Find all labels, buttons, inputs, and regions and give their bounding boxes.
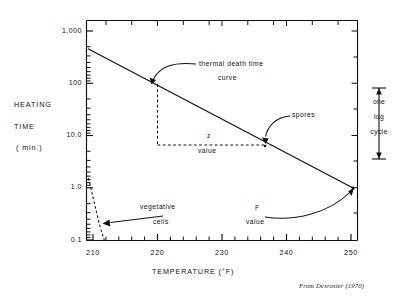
x-tick-label-210: 210 [76,249,110,257]
series-vegetative-cells [89,178,105,241]
y-tick-label-0-1: 0.1 [40,236,82,243]
f-value-point-marker [352,187,355,190]
x-tick-label-250: 250 [334,249,368,257]
annotation-z-symbol: z [207,132,211,139]
spores-leader [266,116,291,137]
y-axis-title-line-1: HEATING [14,101,52,109]
log-cycle-down-arrowhead [376,153,382,160]
y-tick-label-100: 100 [40,79,82,86]
figure-container: 1,000 100 10.0 1.0 0.1 210 220 230 240 2… [0,0,406,305]
y-minor-ticks [87,47,91,238]
vegetative-cells-arrowhead [103,220,111,227]
log-cycle-up-arrowhead [376,88,382,95]
series-thermal-death-time-curve [88,49,354,189]
f-value-leader [265,193,349,218]
y-tick-label-1000: 1,000 [40,27,82,34]
log-cycle-label-line-3: cycle [366,127,392,138]
x-tick-label-220: 220 [141,249,175,257]
figure-credit: From Desrosier (1970) [299,282,364,289]
spores-point-marker [264,145,267,148]
y-axis-title-line-3: ( min.) [16,144,43,152]
log-cycle-label-line-1: one [366,97,392,108]
annotation-thermal-death-time-line-1: thermal death time [199,60,263,67]
plot-frame [87,21,358,241]
x-axis-title: TEMPERATURE (°F) [152,268,234,276]
annotation-spores: spores [292,111,315,118]
y-tick-label-1: 1.0 [40,183,82,190]
annotation-z-word: value [198,147,217,154]
x-tick-label-240: 240 [270,249,304,257]
annotation-vegetative-cells-line-1: vegetative [140,203,175,210]
y-right-ticks [352,31,358,213]
annotation-f-word: value [246,218,265,225]
y-tick-label-10: 10.0 [40,131,82,138]
annotation-thermal-death-time-line-2: curve [218,74,237,81]
x-tick-label-230: 230 [205,249,239,257]
x-top-ticks [106,21,338,27]
annotation-f-symbol: F [255,204,260,211]
log-cycle-label-line-2: log [366,112,392,123]
thermal-death-time-leader [153,64,197,81]
y-axis-title-line-2: TIME [14,123,35,131]
annotation-vegetative-cells-line-2: cells [153,218,169,225]
